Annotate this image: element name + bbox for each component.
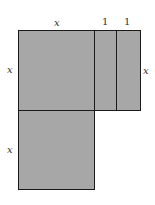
- label-left-x-upper: x: [7, 65, 13, 75]
- label-right-x: x: [143, 66, 149, 76]
- label-top-one-b: 1: [124, 17, 130, 27]
- unit-strip-tile-1: [94, 30, 118, 111]
- label-top-one-a: 1: [102, 17, 108, 27]
- x-squared-bottom-tile: [18, 110, 95, 191]
- label-top-x: x: [54, 18, 60, 28]
- x-squared-top-tile: [18, 30, 95, 111]
- label-left-x-lower: x: [7, 145, 13, 155]
- unit-strip-tile-2: [116, 30, 141, 111]
